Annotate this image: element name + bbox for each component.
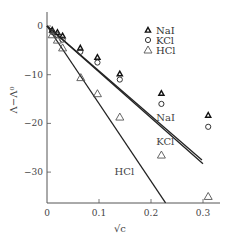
legend-label-hcl: HCl xyxy=(156,45,176,56)
x-tick-label: 0.3 xyxy=(196,208,211,218)
legend-marker-kcl xyxy=(145,37,150,42)
legend: NaIKClHCl xyxy=(144,25,176,56)
line-labels: NaIKClHCl xyxy=(115,112,175,177)
point-kcl xyxy=(206,124,211,129)
point-nai xyxy=(117,71,122,76)
x-tick-label: 0 xyxy=(44,208,50,218)
x-tick-label: 0.2 xyxy=(144,208,158,218)
point-kcl xyxy=(95,60,100,65)
y-tick-label: −30 xyxy=(24,167,43,177)
line-label-nai: NaI xyxy=(156,112,175,123)
axes: 00.10.20.30−10−20−30√cΛ−Λ⁰ xyxy=(8,12,220,234)
point-hcl xyxy=(93,90,101,97)
legend-marker-hcl xyxy=(144,46,152,53)
x-axis-label: √c xyxy=(114,223,126,234)
point-kcl xyxy=(117,77,122,82)
y-axis-label: Λ−Λ⁰ xyxy=(8,87,19,115)
point-nai xyxy=(206,113,211,118)
point-hcl xyxy=(157,151,165,158)
line-label-hcl: HCl xyxy=(115,166,135,177)
point-kcl xyxy=(159,101,164,106)
point-hcl xyxy=(204,192,212,199)
point-hcl xyxy=(116,113,124,120)
line-label-kcl: KCl xyxy=(156,136,174,147)
x-tick-label: 0.1 xyxy=(92,208,106,218)
y-tick-label: −10 xyxy=(24,70,43,80)
point-nai xyxy=(159,91,164,96)
point-nai xyxy=(95,55,100,60)
y-tick-label: 0 xyxy=(37,21,43,31)
y-tick-label: −20 xyxy=(24,118,43,128)
conductivity-chart: 00.10.20.30−10−20−30√cΛ−Λ⁰ NaIKClHCl NaI… xyxy=(0,0,232,236)
legend-marker-nai xyxy=(145,27,150,32)
